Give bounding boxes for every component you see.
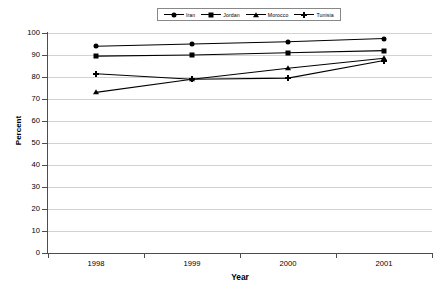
legend-item-tunisia[interactable]: Tunisia [294, 10, 333, 19]
series-markers [48, 33, 432, 253]
data-point-tunisia-2001 [381, 58, 387, 64]
legend-label: Jordan [223, 12, 239, 18]
legend-label: Tunisia [316, 12, 333, 18]
y-axis-tick [42, 99, 47, 100]
y-axis-tick [42, 143, 47, 144]
chart-legend: IranJordanMoroccoTunisia [157, 8, 341, 21]
y-axis-tick-label: 90 [16, 51, 40, 59]
x-axis-tick [336, 253, 337, 258]
y-axis-tick-label: 20 [16, 205, 40, 213]
y-axis-tick [42, 209, 47, 210]
legend-item-jordan[interactable]: Jordan [201, 10, 239, 19]
y-axis-tick [42, 253, 47, 254]
legend-marker-square-icon [201, 10, 221, 19]
data-point-tunisia-1999 [189, 76, 195, 82]
x-axis-tick-label: 2000 [258, 259, 318, 268]
y-axis-tick [42, 165, 47, 166]
x-axis-tick-label: 1998 [66, 259, 126, 268]
data-point-iran-1998 [94, 44, 99, 49]
legend-label: Morocco [268, 12, 289, 18]
legend-marker-cross-icon [294, 10, 314, 19]
x-axis-tick-label: 1999 [162, 259, 222, 268]
y-axis-tick [42, 55, 47, 56]
legend-label: Iran [186, 12, 195, 18]
data-point-jordan-1998 [94, 54, 99, 59]
legend-item-morocco[interactable]: Morocco [246, 10, 289, 19]
data-point-iran-2000 [286, 39, 291, 44]
line-chart: IranJordanMoroccoTunisia 100908070605040… [0, 0, 448, 293]
legend-marker-circle-icon [164, 10, 184, 19]
data-point-iran-1999 [190, 42, 195, 47]
x-axis-tick [432, 253, 433, 258]
x-axis-tick-label: 2001 [354, 259, 414, 268]
y-axis-tick-label: 80 [16, 73, 40, 81]
legend-marker-triangle-icon [246, 10, 266, 19]
y-axis-tick [42, 77, 47, 78]
y-axis-title: Percent [14, 91, 23, 171]
data-point-jordan-1999 [190, 53, 195, 58]
data-point-iran-2001 [382, 36, 387, 41]
x-axis-title: Year [48, 272, 432, 282]
y-axis-tick [42, 121, 47, 122]
x-axis-tick [144, 253, 145, 258]
data-point-morocco-1998 [93, 90, 99, 95]
y-axis-tick [42, 33, 47, 34]
legend-item-iran[interactable]: Iran [164, 10, 195, 19]
y-axis-tick-label: 30 [16, 183, 40, 191]
y-axis-tick-label: 10 [16, 227, 40, 235]
x-axis-tick [48, 253, 49, 258]
data-point-tunisia-2000 [285, 75, 291, 81]
x-axis-tick [240, 253, 241, 258]
data-point-morocco-2000 [285, 65, 291, 70]
y-axis-tick-label: 100 [16, 29, 40, 37]
y-axis-tick [42, 187, 47, 188]
y-axis-tick-label: 0 [16, 249, 40, 257]
data-point-jordan-2001 [382, 48, 387, 53]
data-point-tunisia-1998 [93, 71, 99, 77]
data-point-jordan-2000 [286, 50, 291, 55]
y-axis-tick [42, 231, 47, 232]
